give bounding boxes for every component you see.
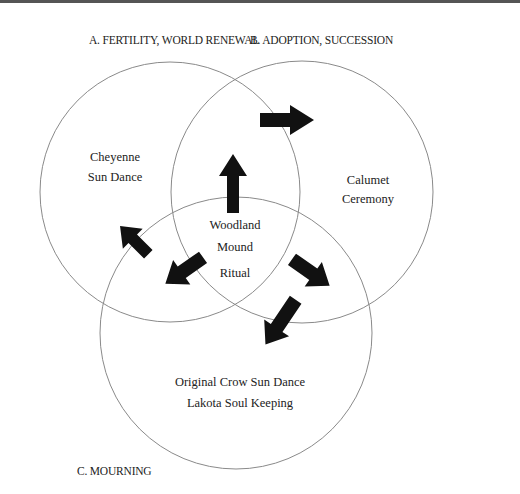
set-c-label: C. MOURNING — [77, 465, 151, 477]
region-a-line2: Sun Dance — [80, 170, 150, 185]
region-center-line1: Woodland — [200, 218, 270, 233]
arrow-up-icon — [219, 154, 247, 213]
region-b-line2: Ceremony — [333, 192, 403, 207]
circle-c — [100, 197, 372, 469]
region-c-line2: Lakota Soul Keeping — [170, 396, 310, 411]
arrow-into-c-icon — [253, 291, 308, 353]
set-a-label: A. FERTILITY, WORLD RENEWAL — [89, 34, 259, 46]
arrow-up-left-icon — [110, 216, 158, 264]
region-b-line1: Calumet — [333, 173, 403, 188]
region-center-line3: Ritual — [200, 266, 270, 281]
arrow-down-right-icon — [283, 247, 338, 298]
set-b-label: B. ADOPTION, SUCCESSION — [250, 34, 393, 46]
region-center-line2: Mound — [200, 240, 270, 255]
region-a-line1: Cheyenne — [80, 150, 150, 165]
venn-diagram: A. FERTILITY, WORLD RENEWAL B. ADOPTION,… — [0, 0, 520, 494]
region-c-line1: Original Crow Sun Dance — [170, 375, 310, 390]
arrow-right-icon — [260, 105, 314, 135]
